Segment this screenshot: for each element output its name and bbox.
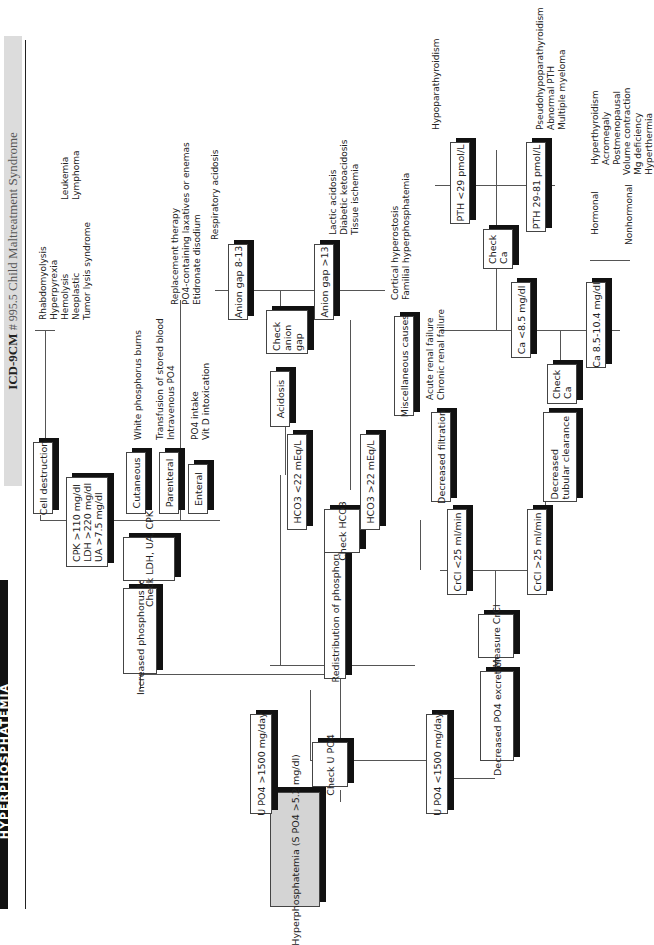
filtration-cause-1: Acute renal failure <box>425 317 435 400</box>
node-decreased-tubular: Decreased tubular clearance <box>543 412 577 502</box>
node-cutaneous: Cutaneous <box>126 452 146 514</box>
connector <box>140 674 340 675</box>
intake-cause-3: Etidronate disodium <box>192 214 202 305</box>
node-hco3-high: HCO3 >22 mEq/L <box>360 434 380 530</box>
header-title: Child Maltreatment Syndrome <box>5 132 20 291</box>
node-upo4-low: U PO4 <1500 mg/day <box>426 714 448 814</box>
parenteral-cause-1: Transfusion of stored blood <box>155 318 165 440</box>
pth-mid-cause-1: Pseudohypoparathyroidism <box>535 7 545 130</box>
connector <box>350 320 351 490</box>
node-hco3-low: HCO3 <22 mEq/L <box>287 434 307 530</box>
node-redistribution: Redistribution of phosphorus <box>324 549 346 679</box>
connector <box>420 520 421 570</box>
filtration-cause-2: Chronic renal failure <box>436 309 446 400</box>
hormonal-cause-3: Postmenopausal <box>612 91 622 165</box>
intake-cause-2: PO4-containing laxatives or enemas <box>181 142 191 305</box>
parenteral-cause-2: Intravenous PO4 <box>166 365 176 440</box>
neoplastic-cause-1: Leukemia <box>60 157 70 200</box>
node-decreased-excretion: Decreased PO4 excretion <box>480 671 514 761</box>
node-ca-normal: Ca 8.5-10.4 mg/dl <box>586 282 606 368</box>
connector <box>45 330 46 440</box>
cell-cause-3: Hemolysis <box>60 274 70 320</box>
misc-cause-2: Familial hyperphosphatemia <box>401 173 411 300</box>
node-anion-gap-normal: Anion gap 8-13 <box>228 244 248 320</box>
connector <box>280 475 281 665</box>
node-ca-low: Ca <8.5 mg/dl <box>511 282 531 358</box>
pth-mid-cause-2: Abnormal PTH <box>546 66 556 130</box>
connector <box>35 330 55 331</box>
connector <box>590 260 630 261</box>
node-check-ldh: Check LDH, UA, CPK <box>123 537 175 581</box>
enteral-cause-1: PO4 intake <box>190 391 200 440</box>
ag-high-cause-2: Diabetic ketoacidosis <box>339 139 349 235</box>
ag-high-cause-1: Lactic acidosis <box>328 170 338 235</box>
node-check-anion-gap: Check anion gap <box>266 310 308 354</box>
connector <box>340 790 341 802</box>
page-title: HYPERPHOSPHATEMIA <box>0 580 8 909</box>
ag-high-cause-3: Tissue ischemia <box>350 164 360 235</box>
intake-cause-1: Replacement therapy <box>170 208 180 305</box>
node-decreased-filtration: Decreased filtration <box>431 412 451 502</box>
node-measure-crcl: Measure CrCl <box>478 614 514 658</box>
node-crcl-high: CrCl >25 ml/min <box>527 509 547 595</box>
node-check-ca-2: Check Ca <box>483 229 513 269</box>
ag-normal-cause: Respiratory acidosis <box>210 150 220 241</box>
hormonal-cause-1: Hyperthyroidism <box>590 90 600 165</box>
connector <box>40 515 41 521</box>
pth-low-cause: Hypoparathyroidism <box>431 39 441 131</box>
node-upo4-high: U PO4 >1500 mg/day <box>250 714 272 814</box>
node-check-hco3: Check HCO3 <box>324 509 360 553</box>
node-anion-gap-high: Anion gap >13 <box>314 244 334 320</box>
node-crcl-low: CrCl <25 ml/min <box>447 509 467 595</box>
node-acidosis: Acidosis <box>270 371 290 427</box>
node-pth-mid: PTH 29-81 pmol/L <box>526 142 546 232</box>
node-cell-destruction: Cell destruction <box>33 442 53 514</box>
cell-cause-2: Hyperpyrexia <box>49 260 59 320</box>
enteral-cause-2: Vit D intoxication <box>201 363 211 440</box>
hormonal-label: Hormonal <box>590 191 600 235</box>
pth-mid-cause-3: Multiple myeloma <box>557 49 567 130</box>
hormonal-cause-2: Acromegaly <box>601 112 611 165</box>
misc-cause-1: Cortical hyperostosis <box>390 206 400 300</box>
node-pth-low: PTH <29 pmol/L <box>450 142 470 224</box>
nonhormonal-cause-2: Mg deficiency <box>633 113 643 175</box>
node-enteral: Enteral <box>188 464 208 514</box>
cell-cause-1: Rhabdomyolysis <box>38 246 48 320</box>
header-rule <box>25 40 26 909</box>
node-check-ca: Check Ca <box>547 364 577 404</box>
cutaneous-cause: White phosphorus burns <box>133 330 143 440</box>
nonhormonal-label: Nonhormonal <box>624 184 634 245</box>
header: ICD-9CM # 995.5 Child Maltreatment Syndr… <box>4 36 22 486</box>
node-check-upo4: Check U PO4 <box>312 742 348 787</box>
connector <box>310 690 311 760</box>
cell-cause-4: Neoplastic <box>71 273 81 320</box>
cell-cause-5: Tumor lysis syndrome <box>82 222 92 320</box>
node-parenteral: Parenteral <box>159 452 179 514</box>
nonhormonal-cause-1: Volume contraction <box>622 88 632 175</box>
node-thresholds: CPK >110 mg/dl LDH >220 mg/dl UA >7.5 mg… <box>66 477 108 567</box>
connector <box>560 330 561 360</box>
nonhormonal-cause-3: Hyperthermia <box>644 113 654 175</box>
neoplastic-cause-2: Lymphoma <box>71 151 81 201</box>
header-code-label: ICD-9CM <box>5 334 20 390</box>
header-code: # 995.5 <box>6 294 20 330</box>
node-misc-causes: Miscellaneous causes <box>394 316 414 416</box>
